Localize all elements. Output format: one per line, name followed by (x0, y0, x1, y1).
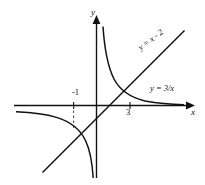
tick-label-minus-one: -1 (72, 88, 79, 97)
math-graph-figure: y x y = x - 2 y = 3/x -1 3 (0, 0, 205, 185)
x-axis (14, 102, 195, 110)
hyperbola-equation-label: y = 3/x (150, 84, 174, 93)
hyperbola-branch-quadrant-3 (16, 112, 93, 178)
y-axis-label: y (91, 8, 95, 17)
y-axis (93, 15, 101, 178)
graph-canvas (0, 0, 205, 185)
tick-label-three: 3 (126, 108, 130, 117)
line-y-equals-x-minus-2 (43, 31, 185, 173)
x-axis-label: x (191, 108, 195, 117)
